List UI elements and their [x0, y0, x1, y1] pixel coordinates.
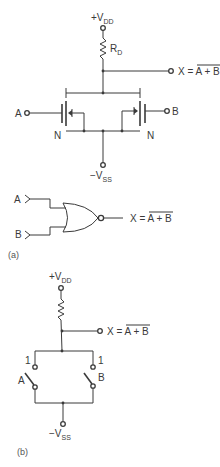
switch-a: 1 A	[18, 351, 37, 403]
vdd-terminal-a	[101, 26, 106, 31]
transistor-left-type: N	[54, 130, 61, 141]
resistor-b	[58, 299, 64, 320]
gate-input-b-label: B	[15, 229, 22, 240]
vdd-label-b: +VDD	[49, 271, 72, 284]
nor-gate-symbol: A B X = A + B	[14, 194, 173, 240]
resistor-rd	[100, 38, 106, 59]
input-a-label: A	[15, 108, 22, 119]
vss-label-b: −VSS	[49, 428, 71, 441]
vss-terminal-a	[101, 163, 106, 168]
vdd-terminal-b	[59, 286, 64, 291]
switch-b-label: B	[98, 372, 105, 383]
input-b-terminal	[165, 109, 170, 114]
output-label-a: X = A + B	[178, 66, 220, 77]
nor-body	[63, 203, 98, 232]
figure-a-mosfet-circuit: +VDD RD X = A + B A N	[15, 12, 220, 183]
input-b-label: B	[172, 106, 179, 117]
nor-bubble	[98, 215, 103, 220]
output-terminal-b	[98, 329, 103, 334]
mosfet-left: A N	[15, 101, 84, 141]
caption-b: (b)	[17, 447, 28, 457]
resistor-label: RD	[110, 43, 122, 56]
input-a-terminal	[25, 111, 30, 116]
output-terminal-a	[169, 69, 174, 74]
nor-gate-diagram: +VDD RD X = A + B A N	[0, 0, 220, 467]
transistor-right-type: N	[147, 130, 154, 141]
switch-a-label: A	[18, 375, 25, 386]
gate-input-a-label: A	[14, 194, 21, 205]
gate-output-label: X = A + B	[130, 213, 172, 224]
figure-b-switch-circuit: +VDD X = A + B 1 A 1 B	[18, 271, 150, 441]
vdd-label-a: +VDD	[91, 12, 114, 25]
caption-a: (a)	[8, 250, 19, 260]
vss-label-a: −VSS	[90, 170, 112, 183]
output-label-b: X = A + B	[107, 326, 149, 337]
mosfet-right: B N	[122, 101, 179, 141]
switch-b-state: 1	[98, 355, 104, 366]
vss-terminal-b	[61, 422, 66, 427]
switch-b: 1 B	[84, 351, 105, 403]
switch-a-state: 1	[25, 355, 31, 366]
